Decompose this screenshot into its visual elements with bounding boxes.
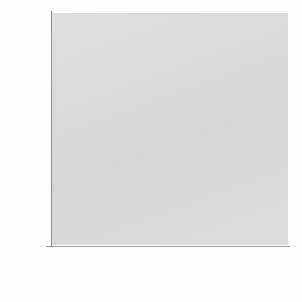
y-axis-tick-labels — [22, 0, 46, 302]
plot-area — [52, 13, 288, 245]
x-axis-line — [46, 246, 290, 247]
y-axis-line — [51, 11, 52, 247]
scan-bleedthrough-artifact — [52, 13, 288, 245]
y-axis-title-wrapper — [0, 0, 20, 252]
x-axis-category-labels — [52, 250, 288, 284]
x-axis-title — [0, 282, 302, 293]
bar-chart-figure — [0, 0, 302, 302]
